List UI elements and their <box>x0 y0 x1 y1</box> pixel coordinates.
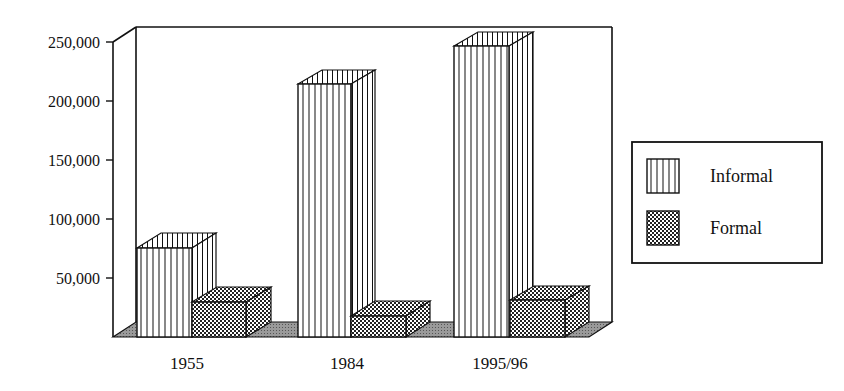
legend: Informal Formal <box>632 142 822 263</box>
bar-formal-1955[interactable] <box>192 287 271 337</box>
chart-canvas: 250,000 200,000 150,000 100,000 50,000 <box>0 0 844 391</box>
x-category-label: 1995/96 <box>472 354 528 373</box>
bar-formal-1995-96[interactable] <box>510 286 589 337</box>
y-tick-label: 50,000 <box>56 270 100 287</box>
y-tick-label: 150,000 <box>48 152 100 169</box>
bar-group-1955 <box>137 233 271 337</box>
x-category-label: 1984 <box>330 354 365 373</box>
x-category-label: 1955 <box>170 354 204 373</box>
y-axis: 250,000 200,000 150,000 100,000 50,000 <box>48 34 113 287</box>
legend-label: Informal <box>710 166 773 186</box>
legend-swatch-vertical-lines-icon <box>647 159 679 193</box>
legend-swatch-crosshatch-icon <box>647 211 679 245</box>
y-tick-label: 200,000 <box>48 93 100 110</box>
bar-chart: 250,000 200,000 150,000 100,000 50,000 <box>0 0 844 391</box>
bar-informal-1995-96[interactable] <box>454 32 533 337</box>
bar-group-1984 <box>298 70 430 337</box>
legend-label: Formal <box>710 218 762 238</box>
y-tick-label: 100,000 <box>48 211 100 228</box>
x-axis: 1955 1984 1995/96 <box>170 354 528 373</box>
bar-group-1995-96 <box>454 32 589 337</box>
bar-informal-1984[interactable] <box>298 70 375 337</box>
y-tick-label: 250,000 <box>48 34 100 51</box>
